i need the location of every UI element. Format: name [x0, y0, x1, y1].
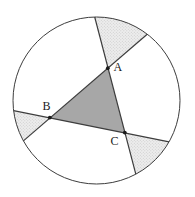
- stippled-region-bottom-right: [125, 133, 169, 174]
- point-c-label: C: [111, 134, 119, 148]
- geometry-figure: A B C: [0, 0, 195, 197]
- figure-canvas: A B C: [0, 0, 195, 197]
- point-b-dot: [48, 116, 52, 120]
- stippled-region-left: [14, 111, 50, 141]
- point-b-label: B: [43, 99, 51, 113]
- shaded-triangle-abc: [50, 68, 125, 133]
- point-c-dot: [123, 131, 127, 135]
- point-a-dot: [106, 66, 110, 70]
- point-a-label: A: [114, 60, 123, 74]
